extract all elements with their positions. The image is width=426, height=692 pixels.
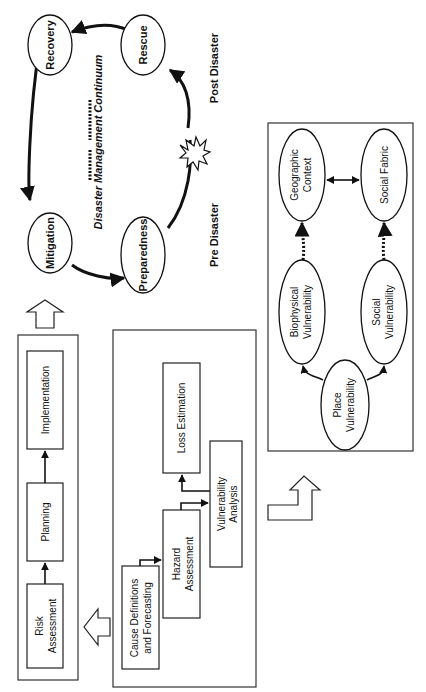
svg-text:Recovery: Recovery [44, 19, 56, 69]
svg-text:Assessment: Assessment [47, 599, 58, 654]
disaster-diagram: Recovery Rescue Mitigation Preparedness … [0, 0, 426, 692]
svg-text:Place: Place [332, 392, 343, 417]
step-risk-assessment: Risk Assessment [27, 584, 63, 668]
svg-text:Rescue: Rescue [137, 25, 149, 64]
svg-text:Geographic: Geographic [289, 149, 300, 201]
post-disaster-label: Post Disaster [208, 32, 220, 103]
arrow-cause-to-hazard [140, 560, 161, 566]
hollow-arrow-left-icon [84, 609, 110, 645]
phase-rescue: Rescue [121, 15, 165, 75]
arrow-hazard-to-vulnerability [181, 503, 208, 510]
box-hazard-assessment: Hazard Assessment [163, 510, 200, 618]
node-biophysical-vulnerability: Biophysical Vulnerability [279, 260, 325, 364]
svg-text:Assessment: Assessment [184, 537, 195, 592]
svg-text:Vulnerability: Vulnerability [216, 477, 227, 531]
disaster-star-icon [180, 137, 210, 170]
arrow-place-to-biophysical [303, 366, 323, 380]
svg-text:Risk: Risk [34, 615, 45, 635]
svg-text:Cause Definitions: Cause Definitions [129, 579, 140, 657]
svg-text:Loss Estimation: Loss Estimation [176, 383, 187, 454]
svg-text:and Forecasting: and Forecasting [142, 582, 153, 654]
svg-text:Vulnerability: Vulnerability [384, 285, 395, 339]
arc-star-to-rescue [170, 70, 189, 128]
phase-preparedness: Preparedness [121, 217, 165, 293]
svg-text:Analysis: Analysis [228, 485, 239, 522]
svg-text:Preparedness: Preparedness [137, 219, 149, 292]
step-planning: Planning [27, 483, 63, 561]
svg-text:Planning: Planning [40, 503, 51, 542]
arc-rescue-to-recovery [72, 25, 128, 32]
node-social-vulnerability: Social Vulnerability [361, 260, 407, 364]
continuum-cycle: Recovery Rescue Mitigation Preparedness … [28, 15, 220, 293]
svg-text:Vulnerability: Vulnerability [302, 285, 313, 339]
svg-text:Mitigation: Mitigation [44, 217, 56, 269]
box-vulnerability-analysis: Vulnerability Analysis [210, 441, 242, 567]
svg-text:Social: Social [371, 298, 382, 325]
vulnerability-panel: Place Vulnerability Biophysical Vulnerab… [268, 123, 413, 451]
svg-text:Implementation: Implementation [40, 366, 51, 434]
svg-text:Context: Context [302, 158, 313, 193]
arc-mitigation-to-preparedness [72, 265, 124, 278]
risk-assessment-panel: Loss Estimation Vulnerability Analysis H… [113, 330, 256, 687]
process-panel: Implementation Planning Risk Assessment [18, 335, 78, 680]
continuum-title: Disaster Management Continuum [92, 54, 104, 229]
svg-text:Biophysical: Biophysical [289, 287, 300, 338]
step-implementation: Implementation [27, 351, 63, 449]
pre-disaster-label: Pre Disaster [208, 202, 220, 267]
arrow-vulnerability-to-loss [182, 475, 210, 491]
node-geographic-context: Geographic Context [279, 129, 325, 221]
hollow-arrow-up-icon [27, 300, 63, 328]
svg-text:Vulnerability: Vulnerability [345, 378, 356, 432]
box-cause-definitions: Cause Definitions and Forecasting [122, 566, 159, 669]
arrow-biophysical-to-geographic [302, 223, 304, 260]
phase-mitigation: Mitigation [28, 213, 72, 273]
svg-text:Hazard: Hazard [171, 548, 182, 580]
node-social-fabric: Social Fabric [361, 129, 407, 221]
box-loss-estimation: Loss Estimation [163, 363, 200, 473]
svg-text:Social Fabric: Social Fabric [379, 146, 390, 204]
arrow-social-to-fabric [383, 223, 384, 260]
phase-recovery: Recovery [28, 15, 72, 75]
hollow-bent-arrow-icon [268, 476, 320, 520]
arrow-place-to-social [367, 366, 384, 380]
node-place-vulnerability: Place Vulnerability [321, 360, 369, 450]
